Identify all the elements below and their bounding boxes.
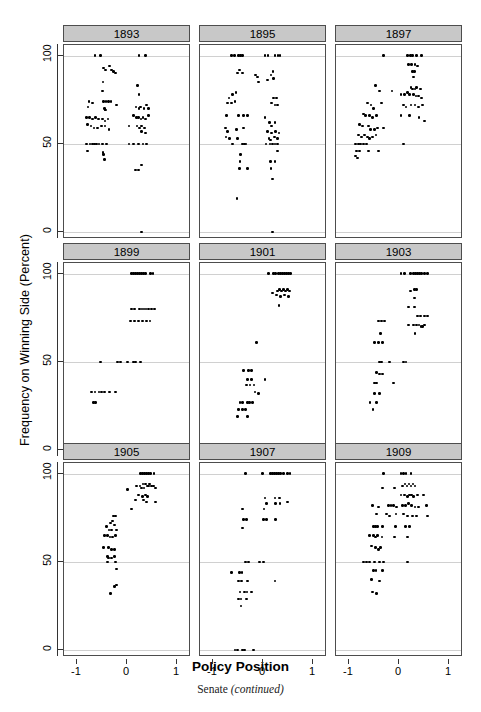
data-point [270, 74, 272, 76]
data-point [263, 508, 265, 510]
data-point [266, 130, 268, 132]
data-point [367, 150, 369, 152]
data-point [382, 127, 384, 129]
x-tick-mark-0 [126, 659, 127, 664]
data-point [406, 485, 408, 487]
data-point [364, 114, 366, 116]
data-point [375, 569, 377, 571]
data-point [276, 104, 278, 106]
data-point [378, 90, 380, 92]
data-point [404, 525, 406, 527]
gridline-y-50 [64, 562, 189, 563]
data-point [243, 649, 245, 651]
data-point [414, 332, 416, 334]
data-point [114, 515, 116, 517]
data-point [371, 504, 373, 506]
data-point [375, 114, 377, 116]
data-point [258, 561, 260, 563]
data-point [378, 580, 380, 582]
data-point [144, 118, 146, 120]
data-point [144, 272, 146, 274]
data-point [154, 501, 156, 503]
data-point [410, 472, 412, 474]
panel-1895: 1895 [199, 25, 326, 238]
data-point [239, 160, 241, 162]
data-point [238, 69, 240, 71]
data-point [276, 143, 278, 145]
data-point [286, 501, 288, 503]
data-point [115, 584, 117, 586]
y-tick-label-50: 50 [41, 552, 53, 568]
gridline-y-100 [200, 56, 325, 57]
data-point [365, 143, 367, 145]
x-axis-col-2: -101 [199, 659, 326, 679]
data-point [419, 88, 421, 90]
data-point [414, 506, 416, 508]
data-point [231, 143, 233, 145]
data-point [246, 167, 248, 169]
y-tick-mark-0 [57, 649, 63, 650]
data-point [274, 580, 276, 582]
data-point [266, 79, 268, 81]
data-point [140, 231, 142, 233]
data-point [138, 127, 140, 129]
data-point [244, 408, 246, 410]
panel-1901: 1901 [199, 243, 326, 456]
data-point [371, 591, 373, 593]
data-point [238, 167, 240, 169]
data-point [268, 121, 270, 123]
y-tick-mark-0 [57, 231, 63, 232]
data-point [103, 391, 105, 393]
data-point [264, 54, 266, 56]
data-point [241, 527, 243, 529]
data-point [115, 104, 117, 106]
data-point [153, 472, 155, 474]
data-point [410, 485, 412, 487]
data-point [270, 132, 272, 134]
data-point [244, 472, 246, 474]
x-tick-label--1: -1 [202, 665, 222, 677]
y-axis-line [57, 462, 58, 656]
data-point [406, 515, 408, 517]
data-point [370, 578, 372, 580]
data-point [236, 649, 238, 651]
data-point [246, 114, 248, 116]
data-point [119, 361, 121, 363]
data-point [225, 114, 227, 116]
data-point [274, 160, 276, 162]
x-tick-label--1: -1 [338, 665, 358, 677]
gridline-y-100 [64, 474, 189, 475]
data-point [102, 81, 104, 83]
data-point [149, 320, 151, 322]
panel-1899: 1899 [63, 243, 190, 456]
y-tick-mark-50 [57, 561, 63, 562]
data-point [246, 591, 248, 593]
data-point [143, 107, 145, 109]
data-point [135, 106, 137, 108]
data-point [373, 392, 375, 394]
data-point [388, 361, 390, 363]
data-point [289, 472, 291, 474]
plot-area-1897 [335, 44, 462, 238]
data-point [149, 472, 151, 474]
data-point [110, 100, 112, 102]
data-point [275, 97, 277, 99]
plot-area-1909 [335, 462, 462, 656]
data-point [400, 114, 402, 116]
data-point [115, 529, 117, 531]
figure-caption: Senate (continued) [0, 683, 481, 695]
data-point [361, 125, 363, 127]
data-point [101, 90, 103, 92]
panel-strip-label-1899: 1899 [63, 243, 190, 260]
plot-area-1899 [63, 262, 190, 456]
data-point [245, 384, 247, 386]
panel-strip-label-1895: 1895 [199, 25, 326, 42]
data-point [262, 561, 264, 563]
data-point [254, 391, 256, 393]
data-point [236, 415, 238, 417]
data-point [144, 54, 146, 56]
data-point [99, 54, 101, 56]
x-tick-label-0: 0 [252, 665, 272, 677]
x-tick-label-0: 0 [116, 665, 136, 677]
data-point [270, 125, 272, 127]
